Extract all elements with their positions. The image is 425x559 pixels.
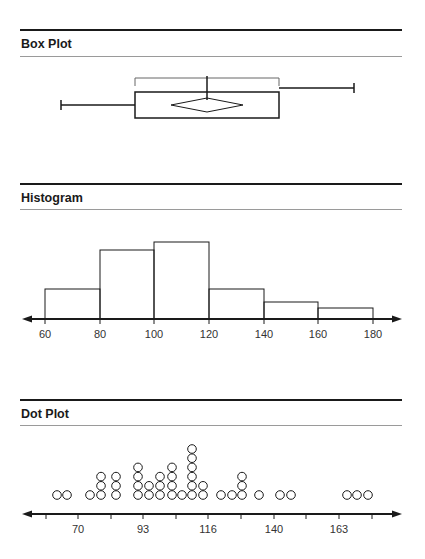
dot-marker (53, 491, 62, 500)
dot-marker (276, 491, 285, 500)
dot-marker (156, 472, 165, 481)
histogram-bar (100, 250, 154, 319)
dot-marker (188, 491, 197, 500)
dot-marker (112, 482, 121, 491)
dot-marker (86, 491, 95, 500)
dot-marker (168, 472, 177, 481)
dot-marker (217, 491, 226, 500)
dot-marker (199, 491, 208, 500)
dot-marker (156, 491, 165, 500)
charts-canvas: 6080100120140160180 7093116140163 (0, 0, 425, 559)
dot-marker (188, 445, 197, 454)
dot-marker (134, 463, 143, 472)
dot-marker (343, 491, 352, 500)
histogram-chart: 6080100120140160180 (22, 242, 402, 340)
histogram-bar (209, 289, 264, 319)
dot-marker (97, 472, 106, 481)
dot-marker (188, 472, 197, 481)
x-tick-label: 100 (145, 328, 163, 340)
dot-marker (168, 482, 177, 491)
box-plot-chart (61, 76, 354, 118)
dot-marker (228, 491, 237, 500)
x-tick-label: 163 (330, 523, 348, 535)
dot-marker (134, 482, 143, 491)
dot-marker (287, 491, 296, 500)
axis-arrow-right-icon (392, 316, 402, 323)
dot-marker (364, 491, 373, 500)
dot-plot-chart: 7093116140163 (22, 445, 402, 535)
dot-marker (178, 491, 187, 500)
histogram-bar (318, 308, 373, 319)
dot-marker (188, 482, 197, 491)
histogram-bar (154, 242, 209, 319)
dot-marker (255, 491, 264, 500)
dot-marker (353, 491, 362, 500)
x-tick-label: 180 (364, 328, 382, 340)
axis-arrow-right-icon (392, 511, 402, 518)
axis-arrow-left-icon (22, 316, 32, 323)
histogram-bar (264, 302, 318, 319)
histogram-bar (45, 289, 100, 319)
x-tick-label: 116 (199, 523, 217, 535)
x-tick-label: 93 (137, 523, 149, 535)
dot-marker (63, 491, 72, 500)
dot-marker (97, 491, 106, 500)
dot-marker (134, 491, 143, 500)
axis-arrow-left-icon (22, 511, 32, 518)
dot-marker (168, 491, 177, 500)
x-tick-label: 80 (94, 328, 106, 340)
dot-marker (156, 482, 165, 491)
x-tick-label: 160 (309, 328, 327, 340)
dot-marker (112, 472, 121, 481)
dot-marker (112, 491, 121, 500)
dot-marker (238, 482, 247, 491)
dot-marker (188, 463, 197, 472)
dot-marker (145, 482, 154, 491)
x-tick-label: 120 (200, 328, 218, 340)
dot-marker (134, 472, 143, 481)
dot-marker (199, 482, 208, 491)
dot-marker (238, 472, 247, 481)
dot-marker (168, 463, 177, 472)
x-tick-label: 140 (255, 328, 273, 340)
dot-marker (145, 491, 154, 500)
x-tick-label: 70 (72, 523, 84, 535)
x-tick-label: 140 (265, 523, 283, 535)
dot-marker (238, 491, 247, 500)
x-tick-label: 60 (39, 328, 51, 340)
dot-marker (188, 454, 197, 463)
mean-diamond-icon (171, 98, 243, 112)
dot-marker (97, 482, 106, 491)
